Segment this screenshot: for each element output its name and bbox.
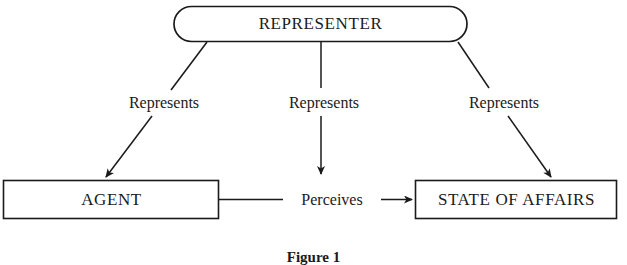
edge-represents-right-upper: [458, 42, 489, 88]
edge-label-perceives: Perceives: [283, 192, 381, 208]
edge-label-represents-left: Represents: [106, 95, 222, 111]
edge-represents-left-lower: [106, 116, 152, 177]
edge-label-represents-middle: Represents: [266, 95, 382, 111]
representer-node-label: REPRESENTER: [174, 15, 467, 32]
figure-caption: Figure 1: [0, 250, 627, 265]
state-of-affairs-node-label: STATE OF AFFAIRS: [416, 191, 617, 208]
edge-label-represents-right: Represents: [446, 95, 562, 111]
edge-represents-right-lower: [508, 116, 551, 177]
edge-represents-left-upper: [171, 42, 207, 90]
agent-node-label: AGENT: [4, 191, 219, 208]
